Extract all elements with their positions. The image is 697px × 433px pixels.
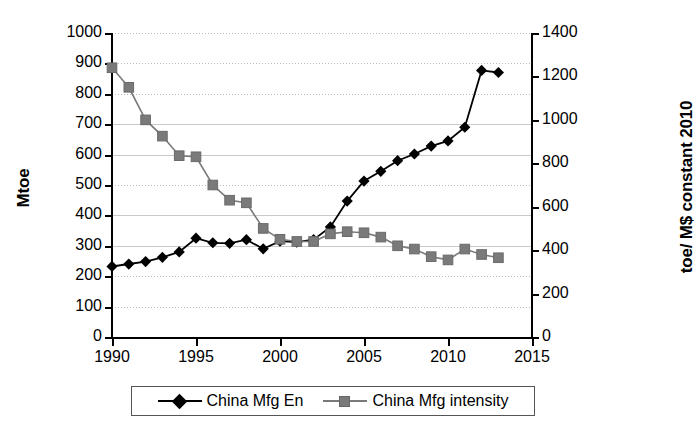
data-point-square (359, 228, 369, 238)
data-point-square (158, 131, 168, 141)
data-point-diamond (224, 238, 235, 249)
data-point-square (208, 180, 218, 190)
data-point-square (410, 244, 420, 254)
data-point-square (477, 250, 487, 260)
data-point-square (191, 152, 201, 162)
data-point-square (326, 229, 336, 239)
legend-label: China Mfg En (207, 392, 304, 410)
data-point-diamond (140, 256, 151, 267)
data-point-square (292, 237, 302, 247)
data-point-square (242, 198, 252, 208)
data-point-diamond (241, 234, 252, 245)
data-point-square (376, 232, 386, 242)
chart-legend: China Mfg EnChina Mfg intensity (131, 386, 535, 416)
data-point-diamond (375, 166, 386, 177)
series-line (112, 70, 498, 266)
series-line (112, 68, 498, 260)
legend-square-icon (323, 394, 367, 408)
data-point-square (258, 224, 268, 234)
legend-item-china-mfg-en[interactable]: China Mfg En (158, 392, 304, 410)
data-point-square (426, 252, 436, 262)
data-point-square (275, 234, 285, 244)
data-point-square (342, 227, 352, 237)
data-point-square (393, 241, 403, 251)
legend-diamond-icon (158, 394, 202, 408)
legend-marker (171, 394, 187, 410)
data-point-square (309, 237, 319, 247)
data-point-square (460, 244, 470, 254)
data-point-square (443, 255, 453, 265)
data-point-diamond (106, 261, 117, 272)
data-point-diamond (409, 148, 420, 159)
series-china-mfg-intensity (107, 63, 503, 265)
data-point-square (494, 253, 504, 263)
data-point-square (107, 63, 117, 73)
data-point-diamond (392, 155, 403, 166)
data-point-diamond (258, 243, 269, 254)
data-point-diamond (493, 67, 504, 78)
data-point-diamond (476, 65, 487, 76)
data-point-diamond (123, 258, 134, 269)
data-point-diamond (207, 237, 218, 248)
data-point-square (141, 115, 151, 125)
data-point-square (225, 195, 235, 205)
legend-label: China Mfg intensity (372, 392, 508, 410)
data-point-square (174, 151, 184, 161)
legend-item-china-mfg-intensity[interactable]: China Mfg intensity (323, 392, 508, 410)
data-point-diamond (157, 252, 168, 263)
data-point-diamond (426, 140, 437, 151)
data-point-square (124, 82, 134, 92)
legend-marker (339, 396, 350, 407)
